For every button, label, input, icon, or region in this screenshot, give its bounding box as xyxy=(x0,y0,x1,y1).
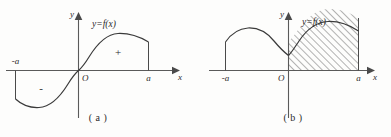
negative-region-sign-a: - xyxy=(39,82,43,94)
tick-label-neg-b: -a xyxy=(222,73,230,83)
y-axis-label-a: y xyxy=(69,9,74,19)
tick-label-pos-b: a xyxy=(356,73,361,83)
origin-label-a: O xyxy=(82,73,89,83)
curve-label-b: y=f(x) xyxy=(301,17,326,28)
positive-region-sign-a: + xyxy=(115,46,121,58)
function-curve-b-left-arc xyxy=(226,28,289,56)
y-axis-label-b: y xyxy=(279,9,284,19)
figure-panel-a: y=f(x) y x O -a a + - ( a ) xyxy=(0,0,196,137)
caption-b: ( b ) xyxy=(195,112,391,123)
x-axis-label-a: x xyxy=(177,72,182,82)
caption-a: ( a ) xyxy=(0,112,196,123)
calculus-figure: y=f(x) y x O -a a + - ( a ) xyxy=(0,0,391,137)
figure-panel-b: y=f(x) y x O -a a ( b ) xyxy=(195,0,391,137)
y-axis-arrow-a xyxy=(75,12,83,20)
x-axis-label-b: x xyxy=(372,72,377,82)
origin-label-b: O xyxy=(278,73,285,83)
curve-label-a: y=f(x) xyxy=(91,19,116,30)
tick-label-pos-a: a xyxy=(146,73,151,83)
y-axis-arrow-b xyxy=(285,12,293,20)
tick-label-neg-a: -a xyxy=(12,56,20,66)
